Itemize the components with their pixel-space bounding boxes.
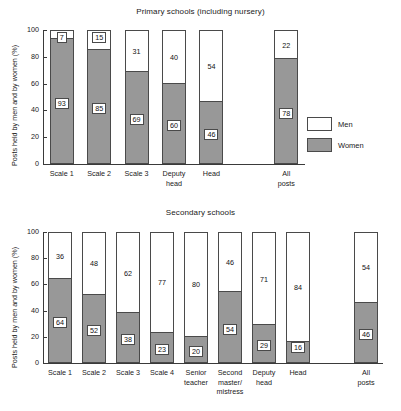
bar-value-women: 54 bbox=[223, 324, 237, 335]
bar-value-men: 46 bbox=[224, 258, 236, 267]
legend-swatch-women-icon bbox=[307, 138, 332, 152]
stacked-bar: 6436 bbox=[48, 232, 72, 363]
bar-value-men: 22 bbox=[280, 41, 292, 50]
x-axis-category-label: All posts bbox=[264, 169, 309, 188]
stacked-bar: 4654 bbox=[354, 232, 378, 363]
y-axis-tick bbox=[44, 30, 47, 31]
bar-value-women: 38 bbox=[121, 334, 135, 345]
y-axis-tick-label: 20 bbox=[17, 132, 39, 141]
stacked-bar: 6040 bbox=[162, 30, 186, 164]
y-axis-tick bbox=[44, 232, 47, 233]
chart-secondary-schools: Secondary schools Posts held by men and … bbox=[0, 200, 401, 411]
stacked-bar: 5446 bbox=[218, 232, 242, 363]
bar-value-women: 85 bbox=[92, 103, 106, 114]
bar-value-women: 16 bbox=[291, 342, 305, 353]
bar-value-men: 71 bbox=[258, 275, 270, 284]
y-axis-line bbox=[43, 232, 44, 364]
bar-value-men: 15 bbox=[92, 32, 106, 43]
legend-row-women: Women bbox=[307, 138, 364, 152]
legend-swatch-men-icon bbox=[307, 117, 332, 131]
y-axis-tick bbox=[44, 110, 47, 111]
y-axis-tick-label: 60 bbox=[17, 279, 39, 288]
bar-value-men: 40 bbox=[168, 53, 180, 62]
bar-value-men: 31 bbox=[131, 47, 143, 56]
y-axis-tick-label: 80 bbox=[17, 52, 39, 61]
y-axis-tick-label: 0 bbox=[17, 159, 39, 168]
y-axis-tick bbox=[44, 363, 47, 364]
bar-value-men: 54 bbox=[360, 263, 372, 272]
legend-label-women: Women bbox=[338, 141, 364, 150]
stacked-bar: 8515 bbox=[87, 30, 111, 164]
bar-value-men: 62 bbox=[122, 269, 134, 278]
stacked-bar: 2080 bbox=[184, 232, 208, 363]
bar-value-women: 46 bbox=[204, 129, 218, 140]
bar-value-women: 69 bbox=[130, 114, 144, 125]
y-axis-tick-label: 80 bbox=[17, 253, 39, 262]
chart-title-primary: Primary schools (including nursery) bbox=[0, 7, 401, 16]
y-axis-tick-label: 40 bbox=[17, 306, 39, 315]
bar-value-men: 48 bbox=[88, 259, 100, 268]
bar-value-women: 93 bbox=[55, 98, 69, 109]
y-axis-line bbox=[43, 30, 44, 165]
y-axis-tick bbox=[44, 284, 47, 285]
x-axis-category-label: Head bbox=[189, 169, 234, 179]
y-axis-tick bbox=[44, 57, 47, 58]
stacked-bar: 937 bbox=[50, 30, 74, 164]
bar-value-women: 52 bbox=[87, 325, 101, 336]
bar-value-women: 60 bbox=[167, 120, 181, 131]
y-axis-tick bbox=[44, 137, 47, 138]
bar-value-men: 77 bbox=[156, 278, 168, 287]
legend-row-men: Men bbox=[307, 117, 353, 131]
plot-area-primary: 020406080100937Scale 18515Scale 26931Sca… bbox=[43, 30, 305, 164]
bar-value-women: 46 bbox=[359, 329, 373, 340]
stacked-bar: 4654 bbox=[199, 30, 223, 164]
y-axis-tick-label: 20 bbox=[17, 332, 39, 341]
x-axis-line bbox=[43, 164, 305, 165]
stacked-bar: 3862 bbox=[116, 232, 140, 363]
bar-value-women: 64 bbox=[53, 317, 67, 328]
y-axis-tick bbox=[44, 84, 47, 85]
x-axis-line bbox=[43, 363, 383, 364]
bar-value-men: 80 bbox=[190, 280, 202, 289]
y-axis-tick-label: 60 bbox=[17, 79, 39, 88]
plot-area-secondary: 0204060801006436Scale 15248Scale 23862Sc… bbox=[43, 232, 383, 363]
x-axis-category-label: All posts bbox=[345, 368, 387, 387]
y-axis-tick bbox=[44, 164, 47, 165]
stacked-bar: 5248 bbox=[82, 232, 106, 363]
chart-primary-schools: Primary schools (including nursery) Post… bbox=[0, 0, 401, 200]
bar-value-men: 84 bbox=[292, 283, 304, 292]
bar-value-men: 36 bbox=[54, 252, 66, 261]
bar-value-women: 29 bbox=[257, 340, 271, 351]
chart-title-secondary: Secondary schools bbox=[0, 208, 401, 217]
legend-label-men: Men bbox=[338, 120, 353, 129]
y-axis-tick bbox=[44, 311, 47, 312]
x-axis-category-label: Head bbox=[277, 368, 319, 378]
bar-value-women: 20 bbox=[189, 346, 203, 357]
bar-value-women: 23 bbox=[155, 344, 169, 355]
y-axis-tick-label: 0 bbox=[17, 358, 39, 367]
y-axis-tick bbox=[44, 337, 47, 338]
bar-value-men: 7 bbox=[57, 32, 67, 43]
y-axis-tick bbox=[44, 258, 47, 259]
stacked-bar: 6931 bbox=[125, 30, 149, 164]
y-axis-tick-label: 100 bbox=[17, 25, 39, 34]
bar-value-men: 54 bbox=[205, 62, 217, 71]
bar-value-women: 78 bbox=[279, 108, 293, 119]
stacked-bar: 2971 bbox=[252, 232, 276, 363]
y-axis-tick-label: 40 bbox=[17, 105, 39, 114]
stacked-bar: 2377 bbox=[150, 232, 174, 363]
stacked-bar: 1684 bbox=[286, 232, 310, 363]
stacked-bar: 7822 bbox=[274, 30, 298, 164]
y-axis-tick-label: 100 bbox=[17, 227, 39, 236]
